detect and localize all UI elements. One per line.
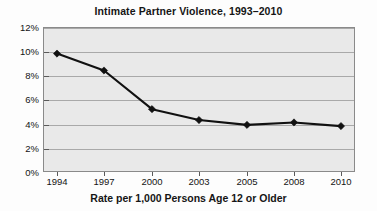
chart-title: Intimate Partner Violence, 1993–2010: [0, 5, 377, 17]
x-tick-label-1994: 1994: [46, 176, 67, 187]
gridline-10: [44, 52, 354, 53]
gridline-12: [44, 28, 354, 29]
y-tick-label-12: 12%: [0, 22, 39, 33]
x-axis-tick-labels: 1994 1997 2000 2003 2005 2008 2010: [0, 176, 377, 190]
y-tick-mark-4: [44, 125, 49, 126]
x-tick-label-2000: 2000: [141, 176, 162, 187]
gridline-8: [44, 76, 354, 77]
gridline-6: [44, 100, 354, 101]
chart-figure: Intimate Partner Violence, 1993–2010 12%…: [0, 0, 377, 211]
x-tick-label-2010: 2010: [330, 176, 351, 187]
y-tick-label-2: 2%: [0, 143, 39, 154]
x-tick-label-2003: 2003: [188, 176, 209, 187]
x-tick-label-2008: 2008: [283, 176, 304, 187]
y-tick-label-4: 4%: [0, 119, 39, 130]
x-axis-title: Rate per 1,000 Persons Age 12 or Older: [0, 192, 377, 204]
plot-area: [43, 27, 355, 172]
y-tick-mark-8: [44, 76, 49, 77]
gridline-4: [44, 125, 354, 126]
y-axis-tick-labels: 12% 10% 8% 6% 4% 2% 0%: [0, 27, 39, 172]
y-tick-mark-6: [44, 100, 49, 101]
x-tick-label-1997: 1997: [93, 176, 114, 187]
x-tick-label-2005: 2005: [236, 176, 257, 187]
y-tick-mark-10: [44, 52, 49, 53]
gridline-2: [44, 149, 354, 150]
y-tick-mark-2: [44, 149, 49, 150]
y-tick-label-8: 8%: [0, 70, 39, 81]
y-tick-label-6: 6%: [0, 94, 39, 105]
y-tick-label-10: 10%: [0, 46, 39, 57]
